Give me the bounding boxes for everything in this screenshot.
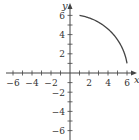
y-tick-label: 4 bbox=[59, 30, 65, 40]
chart: −6 −4 −2 2 4 6 6 4 2 −2 −4 −6 x y bbox=[0, 0, 139, 140]
x-tick-label: 4 bbox=[105, 78, 111, 88]
y-tick-label: 6 bbox=[59, 11, 65, 21]
y-tick-label: −4 bbox=[52, 107, 66, 117]
x-tick-label: −6 bbox=[6, 78, 20, 88]
x-tick-label: −2 bbox=[44, 78, 57, 88]
x-tick-label: 6 bbox=[124, 78, 130, 88]
x-axis-label: x bbox=[134, 74, 139, 85]
arc-curve bbox=[80, 15, 128, 63]
y-tick-label: −2 bbox=[52, 88, 65, 98]
y-tick-label: −6 bbox=[52, 126, 66, 136]
y-axis-label: y bbox=[61, 0, 68, 11]
x-tick-label: 2 bbox=[86, 78, 92, 88]
y-tick-label: 2 bbox=[59, 49, 65, 59]
x-tick-label: −4 bbox=[25, 78, 39, 88]
y-axis-arrow-icon bbox=[68, 3, 73, 9]
